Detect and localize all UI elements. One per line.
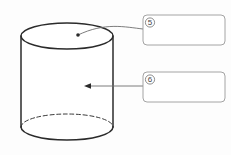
figure-canvas: 5 6: [0, 0, 231, 155]
marker-label-6: 6: [148, 75, 153, 84]
cylinder-shape: [21, 23, 113, 140]
cylinder-body-fill: [21, 36, 113, 140]
answer-box-5[interactable]: [143, 15, 225, 45]
leader-endpoint-dot-5: [76, 33, 80, 37]
cylinder-diagram-svg: 5 6: [0, 0, 231, 155]
answer-box-5-group[interactable]: 5: [143, 15, 225, 45]
answer-box-6[interactable]: [143, 72, 225, 102]
marker-label-5: 5: [148, 18, 153, 27]
answer-box-6-group[interactable]: 6: [143, 72, 225, 102]
